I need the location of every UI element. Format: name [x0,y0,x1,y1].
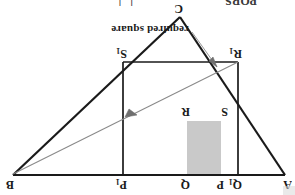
label-R1: R1 [229,48,242,60]
label-R: R [181,106,190,118]
label-Q: Q [181,179,190,191]
triangle-side-BC [13,17,180,175]
required-square-caption: required square [111,24,189,35]
label-S1: S1 [116,48,127,60]
required-square-shape [187,121,221,175]
label-C: C [174,3,183,15]
label-P: P [217,179,224,191]
figure-canvas: PQRS . | |. . A B C P [0,0,295,195]
label-Q1: Q1 [229,179,242,191]
scan-artifact [283,186,295,195]
label-B: B [6,179,14,191]
rotated-figure-group: A B C P Q R S P1 Q1 R1 S1 required squar… [0,0,295,195]
label-S: S [221,106,228,118]
label-P1: P1 [116,179,127,191]
